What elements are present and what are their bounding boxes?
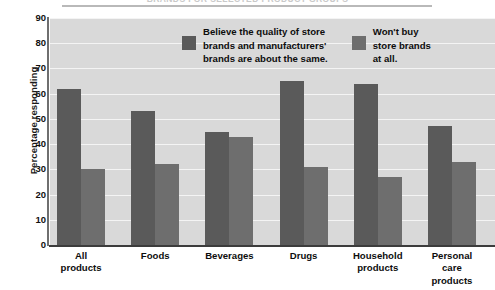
gridline [50,68,495,69]
bar [378,177,402,245]
legend-entry: Believe the quality of store brands and … [182,25,328,66]
y-tick-label: 80 [20,38,46,48]
chart-title-strip: BRANDS FOR SELECTED PRODUCT GROUPS [0,0,495,7]
y-tick-label: 10 [20,215,46,225]
bar [280,81,304,245]
legend-label: Won't buy store brands at all. [373,25,431,66]
legend-swatch-same-quality [182,36,196,50]
y-axis-tick-labels: 9080706050403020100 [20,7,46,245]
x-tick-label: Household products [341,250,415,275]
gridline [50,94,495,95]
y-tick-label: 70 [20,64,46,74]
bar [155,164,179,245]
chart-title: BRANDS FOR SELECTED PRODUCT GROUPS [0,0,495,4]
x-axis-category-labels: All productsFoodsBeveragesDrugsHousehold… [50,250,495,290]
x-axis-line [49,245,495,247]
gridline [50,18,495,19]
y-tick-label: 60 [20,89,46,99]
legend-swatch-wont-buy [352,36,366,50]
bar [57,89,81,245]
y-tick-label: 30 [20,165,46,175]
bar [304,167,328,245]
chart-legend: Believe the quality of store brands and … [182,25,431,66]
y-tick-label: 50 [20,114,46,124]
legend-label: Believe the quality of store brands and … [203,25,328,66]
legend-entry: Won't buy store brands at all. [352,25,431,66]
y-tick-label: 0 [20,240,46,250]
bar [452,162,476,245]
x-tick-label: Personal care products [415,250,489,287]
gridline [50,119,495,120]
y-tick-label: 20 [20,190,46,200]
bar [81,169,105,245]
bar [229,137,253,245]
y-tick-label: 40 [20,139,46,149]
y-tick-label: 90 [20,13,46,23]
x-tick-label: Drugs [267,250,341,262]
x-tick-label: All products [44,250,118,275]
bar [131,111,155,245]
bar-chart-figure: Percentage responding 908070605040302010… [0,7,495,290]
x-tick-label: Foods [118,250,192,262]
bar [205,132,229,246]
bar [354,84,378,245]
x-tick-label: Beverages [192,250,266,262]
y-axis-line [47,17,49,246]
bar [428,126,452,245]
